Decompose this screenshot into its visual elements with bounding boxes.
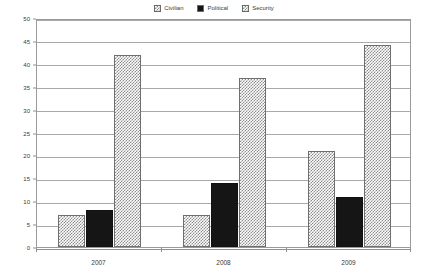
y-axis-tick-label: 35: [23, 84, 30, 91]
legend-item-security: Security: [242, 4, 274, 12]
bar-civilian-2009: [308, 151, 335, 247]
bar-political-2008: [211, 183, 238, 247]
legend-swatch-political-icon: [197, 5, 204, 12]
y-axis-tick-label: 5: [27, 222, 30, 229]
y-axis-tick-label: 25: [23, 130, 30, 137]
x-axis-label-2008: 2008: [216, 259, 230, 267]
bar-group-2007: [58, 20, 141, 247]
y-axis-tick-label: 45: [23, 38, 30, 45]
x-axis-tick-mark: [36, 248, 37, 252]
bar-security-2008: [239, 78, 266, 247]
x-axis-label-2007: 2007: [91, 259, 105, 267]
legend-label-political: Political: [207, 4, 228, 12]
legend-label-security: Security: [252, 4, 274, 12]
bar-security-2007: [114, 55, 141, 247]
y-axis-tick-label: 50: [23, 16, 30, 23]
y-axis-tick-label: 40: [23, 61, 30, 68]
legend-swatch-security-icon: [242, 5, 249, 12]
x-axis: 200720082009: [36, 248, 411, 277]
x-axis-label-2009: 2009: [341, 259, 355, 267]
y-axis-tick-label: 0: [27, 245, 30, 252]
x-axis-tick-mark: [161, 248, 162, 252]
y-axis-tick-label: 15: [23, 176, 30, 183]
bar-civilian-2007: [58, 215, 85, 247]
bar-political-2009: [336, 197, 363, 247]
bar-security-2009: [364, 45, 391, 247]
bar-civilian-2008: [183, 215, 210, 247]
legend-item-political: Political: [197, 4, 228, 12]
y-axis-tick-label: 30: [23, 107, 30, 114]
bar-political-2007: [86, 210, 113, 247]
x-axis-tick-mark: [410, 248, 411, 252]
x-axis-tick-mark: [286, 248, 287, 252]
y-axis-tick-label: 20: [23, 153, 30, 160]
bar-group-2009: [308, 20, 391, 247]
bar-group-2008: [183, 20, 266, 247]
chart-legend: Civilian Political Security: [0, 1, 428, 15]
plot-area: [36, 19, 411, 248]
y-axis: 05101520253035404550: [0, 19, 36, 248]
bar-series-container: [37, 20, 410, 247]
y-axis-tick-label: 10: [23, 199, 30, 206]
legend-item-civilian: Civilian: [154, 4, 183, 12]
legend-swatch-civilian-icon: [154, 5, 161, 12]
legend-label-civilian: Civilian: [164, 4, 183, 12]
